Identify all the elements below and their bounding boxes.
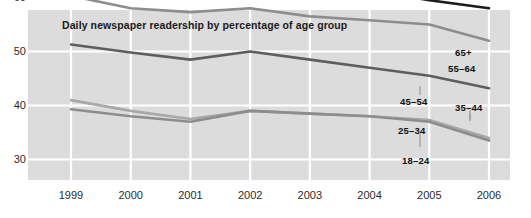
- label-leader-lines: [420, 86, 470, 147]
- y-axis-tick-label: 60: [0, 0, 26, 3]
- series-label-25-34: 25–34: [398, 125, 425, 136]
- y-axis-tick-label: 50: [0, 45, 26, 57]
- x-axis-tick-label: 2004: [348, 189, 392, 201]
- series-label-35-44: 35–44: [455, 102, 482, 113]
- x-axis-tick-label: 2006: [467, 189, 511, 201]
- x-axis-tick-label: 2000: [109, 189, 153, 201]
- series-line: [71, 109, 489, 140]
- series-line: [71, 0, 489, 8]
- x-axis-tick-label: 2005: [407, 189, 451, 201]
- y-axis-tick-label: 40: [0, 99, 26, 111]
- series-label-45-54: 45–54: [400, 96, 427, 107]
- x-axis-tick-label: 2002: [228, 189, 272, 201]
- x-axis-tick-label: 2003: [288, 189, 332, 201]
- chart-canvas: [0, 0, 531, 218]
- y-axis-tick-label: 30: [0, 153, 26, 165]
- chart-title: Daily newspaper readership by percentage…: [62, 19, 347, 31]
- series-label-18-24: 18–24: [402, 155, 429, 166]
- x-axis-tick-label: 2001: [168, 189, 212, 201]
- series-label-65-: 65+: [455, 47, 472, 58]
- x-axis-tick-label: 1999: [49, 189, 93, 201]
- chart-container: Daily newspaper readership by percentage…: [0, 0, 531, 218]
- series-label-55-64: 55–64: [448, 63, 475, 74]
